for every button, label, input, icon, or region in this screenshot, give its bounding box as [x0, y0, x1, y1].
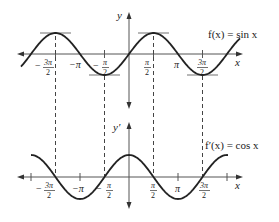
bottom-x-axis-label: x [234, 179, 240, 191]
tick-label: −π [69, 59, 82, 70]
tick-label-sign: − [36, 183, 42, 194]
tick-label-den: 2 [200, 68, 204, 77]
tick-label-num: 3π [197, 58, 207, 67]
tick-label-den: 2 [46, 68, 50, 77]
sin-cos-derivative-diagram: − 3π 2 −π − π 2 π 2 π 3π 2 y x f(x) = si… [0, 0, 279, 222]
bottom-y-axis-up-arrow-icon [127, 122, 132, 129]
bottom-x-axis-left-arrow-icon [17, 175, 24, 180]
tick-label-den: 2 [145, 68, 149, 77]
tick-label-den: 2 [151, 191, 155, 200]
top-plot: − 3π 2 −π − π 2 π 2 π 3π 2 y x f(x) = si… [17, 9, 258, 109]
tick-label-num: π [145, 58, 150, 67]
top-function-label: f(x) = sin x [208, 28, 258, 41]
tick-label-num: π [103, 58, 108, 67]
top-x-axis-left-arrow-icon [17, 52, 24, 57]
tick-label-sign: − [96, 183, 102, 194]
tick-label-num: π [151, 181, 156, 190]
tick-label-sign: − [93, 60, 99, 71]
tick-label: π [174, 59, 180, 70]
bottom-plot: − 3π 2 −π − π 2 π 2 π 3π 2 y′ x f′(x) = … [17, 121, 259, 209]
tick-label-den: 2 [202, 191, 206, 200]
tick-label-den: 2 [103, 68, 107, 77]
tick-label-num: 3π [44, 181, 54, 190]
top-x-axis-label: x [234, 56, 240, 68]
bottom-y-axis-label: y′ [112, 121, 121, 133]
tick-label-den: 2 [107, 191, 111, 200]
top-y-axis-up-arrow-icon [127, 12, 132, 19]
bottom-function-label: f′(x) = cos x [205, 139, 259, 152]
tick-label: π [175, 183, 181, 194]
tick-label-num: 3π [199, 181, 209, 190]
tick-label-num: π [107, 181, 112, 190]
top-y-axis-label: y [116, 9, 122, 21]
top-y-axis-down-arrow-icon [127, 102, 132, 109]
tick-label-den: 2 [47, 191, 51, 200]
tick-label-num: 3π [43, 58, 53, 67]
bottom-y-axis-down-arrow-icon [127, 202, 132, 209]
tick-label-sign: − [35, 60, 41, 71]
tick-label: −π [72, 183, 85, 194]
